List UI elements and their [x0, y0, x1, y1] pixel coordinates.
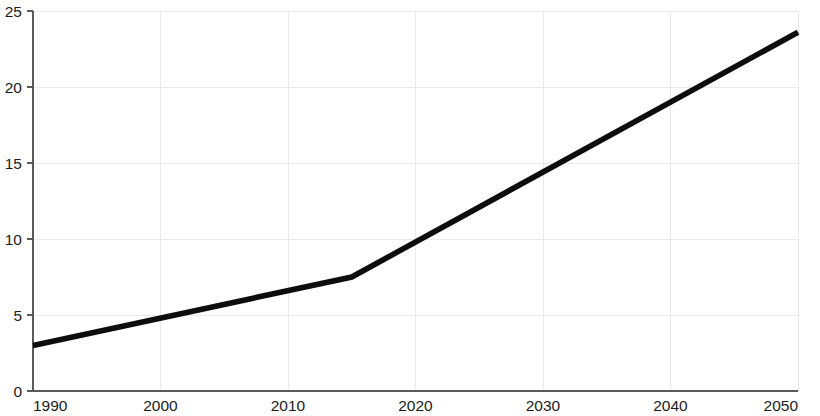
y-tick-label: 15 [5, 155, 22, 172]
x-tick-label: 2020 [398, 397, 433, 414]
x-tick-label: 2000 [143, 397, 178, 414]
y-tick-label: 20 [5, 79, 23, 96]
chart-background [0, 0, 820, 416]
x-tick-label: 2050 [764, 397, 799, 414]
y-tick-label: 5 [13, 307, 22, 324]
line-chart: 0510152025 1990200020102020203020402050 [0, 0, 820, 416]
y-tick-label: 25 [5, 3, 22, 20]
y-tick-label: 10 [5, 231, 23, 248]
chart-canvas: 0510152025 1990200020102020203020402050 [0, 0, 820, 416]
x-tick-label: 2030 [526, 397, 561, 414]
x-tick-label: 1990 [33, 397, 68, 414]
x-tick-label: 2010 [271, 397, 306, 414]
y-tick-label: 0 [13, 383, 22, 400]
x-axis-tick-labels: 1990200020102020203020402050 [33, 397, 798, 414]
x-tick-label: 2040 [653, 397, 688, 414]
